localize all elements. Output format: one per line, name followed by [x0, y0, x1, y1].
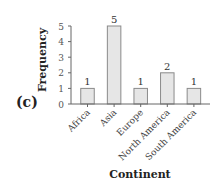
y-axis-label: Frequency	[36, 27, 49, 92]
y-tick-label: 1	[58, 84, 64, 94]
bar-asia	[107, 26, 121, 104]
bar-value-label: 1	[84, 76, 90, 87]
bar-europe	[134, 88, 148, 104]
x-tick-label: South America	[143, 107, 198, 162]
bar-south-america	[187, 88, 201, 104]
x-tick-label: Asia	[97, 107, 119, 129]
chart-figure: (c) Frequency Continent 012345 15121 Afr…	[0, 0, 221, 184]
bar-north-america	[161, 73, 175, 104]
y-axis: 012345	[58, 22, 71, 110]
y-tick-label: 3	[58, 53, 64, 63]
y-tick-label: 5	[58, 22, 64, 32]
x-tick-label: Africa	[65, 107, 93, 135]
y-tick-label: 2	[58, 68, 64, 78]
y-tick-label: 4	[58, 37, 64, 47]
x-axis-label: Continent	[109, 168, 171, 181]
bars: 15121	[81, 14, 201, 104]
bar-africa	[81, 88, 95, 104]
bar-chart: (c) Frequency Continent 012345 15121 Afr…	[0, 0, 221, 184]
panel-label: (c)	[16, 94, 38, 110]
bar-value-label: 2	[164, 61, 170, 72]
bar-value-label: 5	[111, 14, 117, 25]
bar-value-label: 1	[191, 76, 197, 87]
bar-value-label: 1	[138, 76, 144, 87]
y-tick-label: 0	[58, 100, 64, 110]
x-axis: AfricaAsiaEuropeNorth AmericaSouth Ameri…	[65, 104, 210, 162]
